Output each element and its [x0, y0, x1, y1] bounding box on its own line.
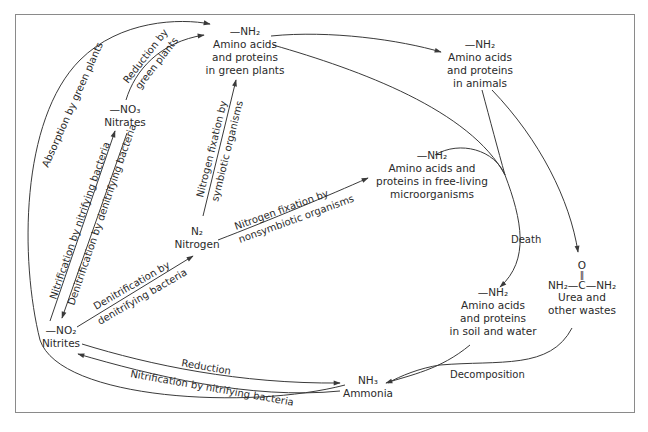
soil-line-1: Amino acids	[443, 299, 543, 312]
arrow-plants-animals	[271, 34, 441, 52]
node-urea: O ‖ NH₂—C—NH₂ Urea and other wastes	[537, 259, 627, 317]
plants-line-3: in green plants	[200, 64, 290, 77]
ammonia-formula: NH₃	[338, 374, 398, 387]
nitrogen-line-1: Nitrogen	[172, 238, 222, 251]
soil-line-3: in soil and water	[443, 325, 543, 338]
nitrates-line-1: Nitrates	[100, 116, 150, 129]
arrow-death-soil	[500, 175, 520, 287]
animals-line-2: and proteins	[440, 64, 520, 77]
micro-formula: —NH₂	[362, 149, 502, 162]
node-soil: —NH₂ Amino acids and proteins in soil an…	[443, 286, 543, 338]
animals-line-1: Amino acids	[440, 51, 520, 64]
soil-line-2: and proteins	[443, 312, 543, 325]
urea-formula-bond: ‖	[537, 271, 627, 279]
plants-line-2: and proteins	[200, 51, 290, 64]
node-nitrates: —NO₃ Nitrates	[100, 103, 150, 129]
nitrogen-formula: N₂	[172, 225, 222, 238]
nitrites-formula: —NO₂	[36, 324, 86, 337]
node-ammonia: NH₃ Ammonia	[338, 374, 398, 400]
flow-arrows: Absorption by green plants Reduction by …	[0, 0, 648, 432]
urea-line-2: other wastes	[537, 304, 627, 317]
label-decomposition: Decomposition	[450, 369, 525, 380]
micro-line-2: proteins in free-living	[362, 175, 502, 188]
arrow-animals-urea	[492, 90, 578, 252]
animals-formula: —NH₂	[440, 38, 520, 51]
plants-formula: —NH₂	[200, 25, 290, 38]
micro-line-3: microorganisms	[362, 188, 502, 201]
node-plants: —NH₂ Amino acids and proteins in green p…	[200, 25, 290, 77]
nitrates-formula: —NO₃	[100, 103, 150, 116]
nitrites-line-1: Nitrites	[36, 337, 86, 350]
ammonia-line-1: Ammonia	[338, 387, 398, 400]
urea-line-1: Urea and	[537, 291, 627, 304]
node-microorganisms: —NH₂ Amino acids and proteins in free-li…	[362, 149, 502, 201]
urea-formula: NH₂—C—NH₂	[537, 279, 627, 291]
label-reduction: Reduction	[181, 357, 232, 377]
soil-formula: —NH₂	[443, 286, 543, 299]
node-nitrites: —NO₂ Nitrites	[36, 324, 86, 350]
label-death: Death	[511, 234, 541, 245]
micro-line-1: Amino acids and	[362, 162, 502, 175]
arrow-denitrification-no2	[77, 256, 193, 327]
animals-line-3: in animals	[440, 77, 520, 90]
label-absorption: Absorption by green plants	[40, 41, 105, 169]
plants-line-1: Amino acids	[200, 38, 290, 51]
node-animals: —NH₂ Amino acids and proteins in animals	[440, 38, 520, 90]
node-nitrogen: N₂ Nitrogen	[172, 225, 222, 251]
